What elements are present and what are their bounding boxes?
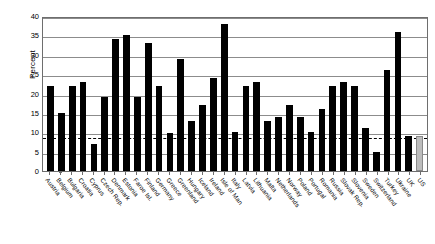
y-tick-label-15: 15 <box>20 110 39 118</box>
x-tick-mark <box>355 172 356 175</box>
x-tick-mark <box>398 172 399 175</box>
x-tick-mark <box>388 172 389 175</box>
bar-denmark <box>112 39 119 171</box>
bar-slot <box>88 18 99 171</box>
x-tick-mark <box>235 172 236 175</box>
x-tick-mark <box>289 172 290 175</box>
x-tick-mark <box>256 172 257 175</box>
bar-turkey <box>384 70 391 171</box>
x-tick-mark <box>158 172 159 175</box>
x-label-slot: Bulgaria <box>66 177 77 243</box>
x-label-slot: Belgium <box>55 177 66 243</box>
bar-slot <box>110 18 121 171</box>
x-tick-mark <box>311 172 312 175</box>
bar-portugal <box>308 132 315 171</box>
x-label-slot: Turkey <box>383 177 394 243</box>
bar-malta <box>264 121 271 171</box>
bar-romania <box>319 109 326 171</box>
bar-norway <box>286 105 293 171</box>
x-tick-mark <box>93 172 94 175</box>
x-label-slot: Faroe Isl. <box>131 177 142 243</box>
bar-slot <box>371 18 382 171</box>
x-tick-mark <box>224 172 225 175</box>
bar-slot <box>393 18 404 171</box>
x-tick-slot <box>317 172 328 176</box>
x-tick-mark <box>147 172 148 175</box>
bar-iceland <box>199 105 206 171</box>
x-tick-slot <box>295 172 306 176</box>
y-tick-label-10: 10 <box>20 129 39 137</box>
plot-area <box>42 17 428 172</box>
x-tick-slot <box>142 172 153 176</box>
bar-slovak-rep <box>340 82 347 171</box>
x-tick-slot <box>164 172 175 176</box>
bar-russia <box>329 86 336 171</box>
x-tick-mark <box>82 172 83 175</box>
bar-switzerland <box>373 152 380 171</box>
x-label-slot: Latvia <box>241 177 252 243</box>
bar-slot <box>132 18 143 171</box>
x-label-slot: Czech Rep. <box>99 177 110 243</box>
x-tick-mark <box>344 172 345 175</box>
bar-poland <box>297 117 304 171</box>
bar-slot <box>208 18 219 171</box>
bar-italy <box>232 132 239 171</box>
x-tick-mark <box>49 172 50 175</box>
x-tick-slot <box>153 172 164 176</box>
x-tick-mark <box>136 172 137 175</box>
bar-faroe-isl <box>134 97 141 171</box>
x-tick-slot <box>306 172 317 176</box>
bar-slot <box>99 18 110 171</box>
x-tick-mark <box>60 172 61 175</box>
bar-estonia <box>123 35 130 171</box>
bar-slot <box>143 18 154 171</box>
x-label-slot: Croatia <box>77 177 88 243</box>
x-tick-slot <box>175 172 186 176</box>
y-tick-label-40: 40 <box>20 13 39 21</box>
bar-slot <box>360 18 371 171</box>
bar-lithuania <box>253 82 260 171</box>
x-label-slot: Estonia <box>120 177 131 243</box>
bar-slot <box>349 18 360 171</box>
x-label-slot: Ukraine <box>394 177 405 243</box>
bar-slot <box>306 18 317 171</box>
bar-slot <box>327 18 338 171</box>
bar-greenland <box>177 59 184 171</box>
bar-slot <box>316 18 327 171</box>
bar-slot <box>197 18 208 171</box>
x-tick-mark <box>366 172 367 175</box>
x-label-slot: Denmark <box>110 177 121 243</box>
bar-czech-rep <box>101 97 108 171</box>
bar-slot <box>219 18 230 171</box>
bar-slot <box>251 18 262 171</box>
x-label-slot: Iceland <box>197 177 208 243</box>
x-label-slot: Poland <box>295 177 306 243</box>
x-tick-mark <box>71 172 72 175</box>
x-tick-mark <box>169 172 170 175</box>
bar-isle-of-man <box>221 24 228 171</box>
x-tick-mark <box>125 172 126 175</box>
bar-uk <box>405 136 412 171</box>
bar-finland <box>145 43 152 171</box>
bar-slot <box>121 18 132 171</box>
x-label-slot: Isle of Man <box>219 177 230 243</box>
x-tick-mark <box>420 172 421 175</box>
bar-slot <box>154 18 165 171</box>
x-label-slot: Slovak Rep. <box>339 177 350 243</box>
bar-slot <box>78 18 89 171</box>
bar-croatia <box>80 82 87 171</box>
x-label-slot: Greenland <box>175 177 186 243</box>
bar-ireland <box>210 78 217 171</box>
bar-slot <box>273 18 284 171</box>
y-tick-label-5: 5 <box>20 149 39 157</box>
x-label-slot: Slovenia <box>350 177 361 243</box>
bar-slot <box>403 18 414 171</box>
x-tick-mark <box>409 172 410 175</box>
bar-slot <box>164 18 175 171</box>
bar-slot <box>230 18 241 171</box>
bar-series <box>43 18 427 171</box>
bar-slot <box>338 18 349 171</box>
y-tick-label-30: 30 <box>20 52 39 60</box>
x-tick-mark <box>191 172 192 175</box>
x-label-slot: Sweden <box>361 177 372 243</box>
